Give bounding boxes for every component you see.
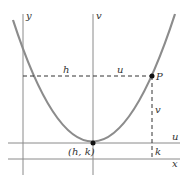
P-label: P — [155, 71, 163, 82]
h-label: h — [63, 64, 69, 75]
k-label: k — [155, 146, 161, 157]
point-P — [150, 74, 155, 79]
u-segment-label: u — [117, 64, 123, 75]
v-segment-label: v — [155, 104, 161, 115]
u-axis-label: u — [172, 131, 178, 142]
parabola-diagram: y v u x h u P v k (h, k) — [0, 0, 185, 180]
y-axis-label: y — [25, 10, 32, 21]
v-axis-label: v — [96, 10, 102, 21]
vertex-point — [91, 141, 96, 146]
x-axis-label: x — [172, 158, 178, 169]
vertex-label: (h, k) — [68, 146, 95, 157]
